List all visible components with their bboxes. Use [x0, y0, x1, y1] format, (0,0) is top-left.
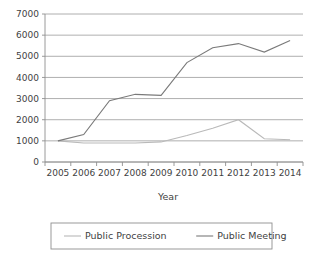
x-tick-label: 2005	[46, 168, 69, 178]
x-tick-label: 2012	[227, 168, 250, 178]
x-tick-label: 2014	[279, 168, 302, 178]
legend-label-1: Public Procession	[85, 230, 167, 241]
x-tick-label: 2007	[98, 168, 121, 178]
data-series	[58, 40, 290, 143]
y-tick-label: 7000	[16, 9, 39, 19]
x-tick-label: 2010	[175, 168, 198, 178]
x-tick-label: 2013	[253, 168, 276, 178]
legend-label-2: Public Meeting	[217, 230, 286, 241]
x-tick-label: 2008	[124, 168, 147, 178]
y-tick-label: 2000	[16, 115, 39, 125]
x-axis-tick-labels: 2005200620072008200920102011201220132014	[46, 168, 301, 178]
x-tick-label: 2009	[150, 168, 173, 178]
x-axis-title: Year	[157, 191, 178, 202]
y-tick-label: 3000	[16, 94, 39, 104]
chart-legend: Public ProcessionPublic Meeting	[51, 223, 287, 249]
y-tick-label: 0	[33, 157, 39, 167]
line-chart: 01000200030004000500060007000 2005200620…	[0, 0, 309, 260]
x-tick-label: 2011	[201, 168, 224, 178]
chart-canvas: 01000200030004000500060007000 2005200620…	[0, 0, 309, 260]
y-tick-label: 6000	[16, 30, 39, 40]
y-tick-label: 1000	[16, 136, 39, 146]
series-line-2	[58, 40, 290, 140]
x-tick-label: 2006	[72, 168, 95, 178]
gridlines	[42, 14, 303, 162]
y-tick-label: 4000	[16, 73, 39, 83]
y-axis-tick-labels: 01000200030004000500060007000	[16, 9, 39, 167]
y-tick-label: 5000	[16, 51, 39, 61]
